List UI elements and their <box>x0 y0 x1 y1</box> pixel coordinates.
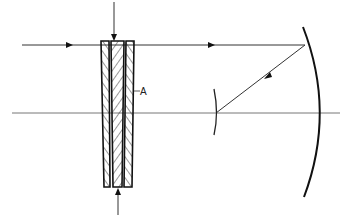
arrow-down-icon <box>111 34 117 41</box>
optical-diagram: A <box>0 0 350 224</box>
reflected-ray <box>216 45 305 113</box>
primary-mirror <box>303 27 320 197</box>
ray-arrow-icon <box>66 42 73 48</box>
arrow-up-icon <box>115 188 121 195</box>
secondary-mirror <box>214 89 217 135</box>
ray-arrow-icon <box>208 42 215 48</box>
diagram-canvas: A <box>0 0 350 224</box>
corrector-plate-a <box>101 41 134 187</box>
corrector-label: A <box>140 86 147 97</box>
